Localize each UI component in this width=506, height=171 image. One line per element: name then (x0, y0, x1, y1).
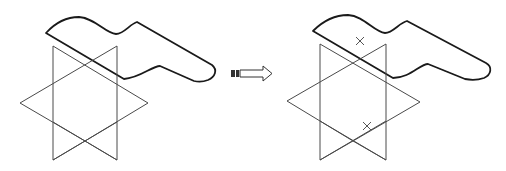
swept-surface (46, 17, 215, 82)
point-mark-2-icon (363, 122, 371, 130)
diagram-canvas (0, 0, 506, 171)
point-mark-1-icon (356, 37, 364, 45)
transform-arrow-icon (231, 66, 272, 81)
swept-surface-projected (313, 15, 490, 80)
star-sketch (20, 46, 148, 160)
panel-before (20, 17, 215, 160)
star-sketch (287, 44, 420, 160)
panel-after (287, 15, 490, 160)
